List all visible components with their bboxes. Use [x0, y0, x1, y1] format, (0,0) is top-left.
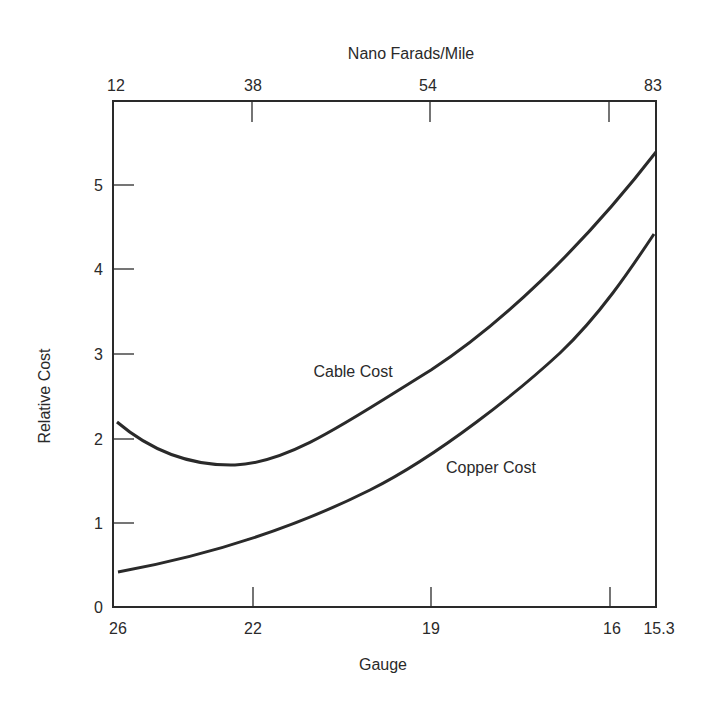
x-axis-title: Gauge	[359, 656, 407, 673]
x-top-tick-83: 83	[644, 77, 662, 94]
x-bottom-tick-22: 22	[244, 620, 262, 637]
y-axis-ticks	[113, 185, 134, 523]
x-top-tick-54: 54	[419, 77, 437, 94]
y-tick-labels: 0 1 2 3 4 5	[94, 177, 103, 616]
x-top-tick-labels: 12 38 54 83	[107, 77, 662, 94]
x-top-tick-38: 38	[244, 77, 262, 94]
x2-axis-title: Nano Farads/Mile	[348, 45, 474, 62]
x-bottom-tick-19: 19	[422, 620, 440, 637]
y-tick-0: 0	[94, 599, 103, 616]
x-axis-top-ticks	[252, 101, 609, 122]
copper-cost-label: Copper Cost	[446, 459, 536, 476]
x-bottom-tick-16: 16	[603, 620, 621, 637]
y-tick-5: 5	[94, 177, 103, 194]
y-tick-2: 2	[94, 431, 103, 448]
x-bottom-tick-26: 26	[109, 620, 127, 637]
y-tick-1: 1	[94, 515, 103, 532]
y-tick-3: 3	[94, 346, 103, 363]
x-top-tick-12: 12	[107, 77, 125, 94]
x-bottom-tick-labels: 26 22 19 16 15.3	[109, 620, 675, 637]
series-cable-cost-line	[117, 152, 656, 465]
series-copper-cost-line	[118, 234, 654, 572]
y-axis-title: Relative Cost	[36, 348, 53, 444]
x-bottom-tick-15-3: 15.3	[643, 620, 674, 637]
y-tick-4: 4	[94, 261, 103, 278]
cable-cost-label: Cable Cost	[313, 363, 393, 380]
x-axis-bottom-ticks	[253, 587, 610, 607]
plot-frame	[113, 101, 656, 607]
chart-canvas: 0 1 2 3 4 5 26 22 19 16 15.3 12 38 54 83…	[0, 0, 712, 710]
